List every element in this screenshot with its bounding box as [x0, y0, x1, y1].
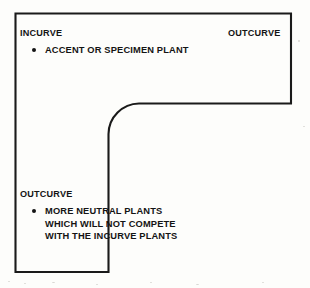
scan-artifact [24, 283, 26, 284]
scan-artifact [262, 282, 264, 283]
scan-artifact [298, 40, 300, 42]
incurve-note-text: ACCENT OR SPECIMEN PLANT [45, 44, 189, 57]
diagram-page: INCURVE OUTCURVE OUTCURVE ACCENT OR SPEC… [0, 0, 310, 288]
scan-artifact [150, 282, 152, 283]
label-layer: INCURVE OUTCURVE OUTCURVE ACCENT OR SPEC… [0, 0, 310, 288]
bullet-icon [32, 209, 36, 213]
scan-artifact [96, 284, 98, 285]
incurve-zone-label: INCURVE [20, 29, 62, 39]
scan-artifact [303, 126, 305, 127]
bullet-icon [32, 48, 36, 52]
incurve-note-item: ACCENT OR SPECIMEN PLANT [32, 44, 189, 57]
scan-artifact [52, 282, 55, 283]
outcurve-top-zone-label: OUTCURVE [228, 29, 280, 39]
scan-artifact [8, 281, 10, 282]
outcurve-note-item: MORE NEUTRAL PLANTS WHICH WILL NOT COMPE… [32, 205, 177, 243]
outcurve-note-text: MORE NEUTRAL PLANTS WHICH WILL NOT COMPE… [45, 205, 177, 243]
outcurve-bottom-zone-label: OUTCURVE [20, 190, 72, 200]
scan-artifact [196, 284, 199, 285]
